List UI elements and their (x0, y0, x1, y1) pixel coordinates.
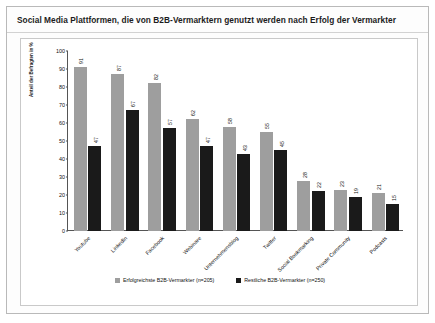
bar-group: 8257 (143, 51, 180, 231)
legend-swatch (115, 278, 120, 283)
y-tick-mark (66, 213, 69, 214)
bar: 43 (237, 154, 250, 231)
chart-legend: Erfolgreichste B2B-Vermarkter (n=205)Res… (21, 277, 419, 283)
y-tick-mark (66, 195, 69, 196)
bar-value-label: 47 (93, 138, 99, 144)
bar-value-label: 21 (376, 184, 382, 190)
bar-value-label: 43 (242, 145, 248, 151)
x-label-cell: Private Community (329, 233, 366, 295)
y-tick-mark (66, 87, 69, 88)
bar-group: 5843 (218, 51, 255, 231)
bar-group: 5545 (255, 51, 292, 231)
bar-group: 9147 (69, 51, 106, 231)
y-tick-mark (66, 231, 69, 232)
x-tick-label: LinkedIn (109, 235, 128, 254)
bar-group: 2115 (367, 51, 404, 231)
y-tick-mark (66, 159, 69, 160)
bar: 57 (163, 128, 176, 231)
bar-value-label: 22 (316, 183, 322, 189)
y-tick-label: 0 (43, 228, 65, 234)
bar: 91 (74, 67, 87, 231)
y-tick-label: 30 (43, 174, 65, 180)
bar-group: 2319 (330, 51, 367, 231)
x-tick-label: Facebook (144, 235, 165, 256)
x-label-cell: LinkedIn (105, 233, 142, 295)
bar-value-label: 55 (265, 123, 271, 129)
y-tick-mark (66, 141, 69, 142)
y-tick-mark (66, 123, 69, 124)
legend-item: Erfolgreichste B2B-Vermarkter (n=205) (115, 277, 214, 283)
y-tick-mark (66, 177, 69, 178)
bar-value-label: 23 (339, 181, 345, 187)
bar-value-label: 58 (227, 118, 233, 124)
bar-value-label: 67 (130, 102, 136, 108)
y-tick-mark (66, 105, 69, 106)
bar-value-label: 28 (302, 172, 308, 178)
bar: 47 (88, 146, 101, 231)
bar: 15 (386, 204, 399, 231)
legend-item: Restliche B2B-Vermarkter (n=250) (236, 277, 325, 283)
x-label-cell: Youtube (68, 233, 105, 295)
bar: 82 (148, 83, 161, 231)
bar-value-label: 45 (279, 141, 285, 147)
legend-label: Erfolgreichste B2B-Vermarkter (n=205) (123, 277, 214, 283)
bar-value-label: 47 (205, 138, 211, 144)
bar: 22 (312, 191, 325, 231)
legend-label: Restliche B2B-Vermarkter (n=250) (244, 277, 325, 283)
x-label-cell: Unternehmensblog (217, 233, 254, 295)
bar-group: 2822 (292, 51, 329, 231)
y-tick-label: 80 (43, 84, 65, 90)
bar: 19 (349, 197, 362, 231)
bar-value-label: 91 (79, 58, 85, 64)
bar-value-label: 62 (190, 111, 196, 117)
bar-groups: 914787678257624758435545282223192115 (69, 51, 404, 231)
plot-area: 0102030405060708090100 91478767825762475… (67, 51, 403, 231)
bar-group: 6247 (181, 51, 218, 231)
legend-swatch (236, 278, 241, 283)
title-bar: Social Media Plattformen, die von B2B-Ve… (7, 7, 428, 33)
bar: 45 (274, 150, 287, 231)
bar: 62 (186, 119, 199, 231)
y-tick-label: 10 (43, 210, 65, 216)
y-tick-mark (66, 51, 69, 52)
bar-value-label: 87 (116, 66, 122, 72)
bar: 28 (297, 181, 310, 231)
y-tick-label: 40 (43, 156, 65, 162)
screenshot-root: Social Media Plattformen, die von B2B-Ve… (0, 0, 435, 323)
chart-container: Anteil der Befragten in % 01020304050607… (20, 38, 418, 306)
x-label-cell: Podcasts (366, 233, 403, 295)
y-tick-label: 20 (43, 192, 65, 198)
y-tick-label: 70 (43, 102, 65, 108)
y-tick-label: 50 (43, 138, 65, 144)
y-axis-label: Anteil der Befragten in % (29, 7, 34, 97)
bar: 47 (200, 146, 213, 231)
bar-value-label: 82 (153, 75, 159, 81)
y-tick-label: 60 (43, 120, 65, 126)
plot-wrap: 0102030405060708090100 91478767825762475… (67, 51, 403, 231)
y-tick-label: 90 (43, 66, 65, 72)
x-tick-label: Twitter (261, 235, 276, 250)
bar: 21 (372, 193, 385, 231)
bar: 87 (111, 74, 124, 231)
y-tick-mark (66, 69, 69, 70)
bar-value-label: 15 (391, 195, 397, 201)
bar: 58 (223, 127, 236, 231)
bar: 23 (334, 190, 347, 231)
bar-group: 8767 (106, 51, 143, 231)
bar-value-label: 57 (167, 120, 173, 126)
page-title: Social Media Plattformen, die von B2B-Ve… (17, 15, 396, 25)
bar-value-label: 19 (354, 188, 360, 194)
bar: 55 (260, 132, 273, 231)
x-axis-labels: YoutubeLinkedInFacebookWebinareUnternehm… (68, 233, 403, 295)
x-label-cell: Facebook (142, 233, 179, 295)
y-tick-label: 100 (43, 48, 65, 54)
x-tick-label: Webinare (182, 235, 202, 255)
x-tick-label: Youtube (73, 235, 91, 253)
bar: 67 (126, 110, 139, 231)
chart-card: Social Media Plattformen, die von B2B-Ve… (6, 6, 429, 314)
x-tick-label: Podcasts (369, 235, 389, 255)
